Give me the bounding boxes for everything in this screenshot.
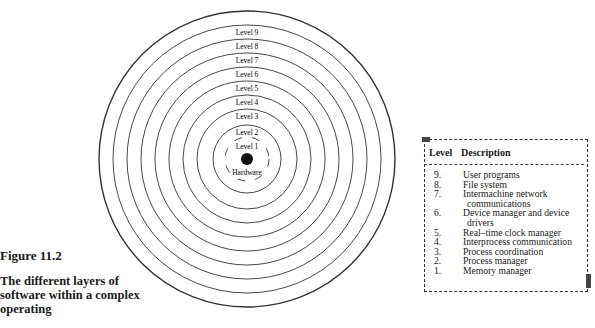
figure-number: Figure 11.2 bbox=[0, 248, 140, 264]
row-level: 6. bbox=[434, 208, 441, 218]
hardware-label: Hardware bbox=[232, 168, 262, 177]
header-level: Level bbox=[429, 147, 452, 158]
row-level: 7. bbox=[434, 189, 441, 199]
ring-label: Level 4 bbox=[236, 98, 259, 107]
ring-label: Level 5 bbox=[236, 84, 259, 93]
ring-label: Level 7 bbox=[236, 56, 259, 65]
row-description: Intermachine networkcommunications bbox=[463, 189, 583, 208]
ring-label: Level 2 bbox=[236, 128, 259, 137]
ring-label: Level 8 bbox=[236, 42, 259, 51]
corner-mark bbox=[586, 274, 591, 288]
header-separator bbox=[424, 164, 584, 165]
figure-description: The different layers of software within … bbox=[0, 274, 140, 316]
ring-label: Level 6 bbox=[236, 70, 259, 79]
table-row: 7.Intermachine networkcommunications bbox=[424, 189, 588, 208]
table-body: 9.User programs8.File system7.Intermachi… bbox=[424, 170, 588, 276]
ring-label-group: Level 1Level 2Level 3Level 4Level 5Level… bbox=[236, 28, 259, 151]
row-description: Device manager and devicedrivers bbox=[463, 208, 583, 227]
table-row: 6.Device manager and devicedrivers bbox=[424, 208, 588, 227]
figure-caption: Figure 11.2 The different layers of soft… bbox=[0, 248, 140, 316]
ring-label: Level 9 bbox=[236, 28, 259, 37]
row-description: Memory manager bbox=[463, 266, 583, 276]
table-row: 1.Memory manager bbox=[424, 266, 588, 276]
ring-label: Level 3 bbox=[236, 112, 259, 121]
header-description: Description bbox=[461, 147, 510, 158]
levels-table: Level Description 9.User programs8.File … bbox=[424, 139, 588, 292]
corner-mark bbox=[422, 137, 430, 142]
hardware-core bbox=[241, 153, 253, 165]
row-level: 1. bbox=[434, 266, 441, 276]
ring-label: Level 1 bbox=[236, 142, 259, 151]
